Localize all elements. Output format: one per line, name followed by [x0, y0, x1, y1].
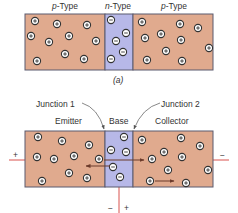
- base-minus-sign: −: [108, 203, 113, 213]
- hole-icon: [70, 152, 77, 159]
- label-p-type-left: p-Type: [51, 1, 78, 11]
- label-emitter: Emitter: [55, 116, 82, 126]
- electron-icon: [107, 55, 114, 62]
- hole-icon: [157, 30, 164, 37]
- hole-icon: [148, 155, 155, 162]
- hole-icon: [95, 155, 102, 162]
- hole-icon: [33, 153, 40, 160]
- hole-icon: [61, 50, 68, 57]
- hole-icon: [83, 21, 90, 28]
- hole-icon: [92, 37, 99, 44]
- hole-icon: [143, 56, 150, 63]
- hole-icon: [27, 32, 34, 39]
- hole-icon: [205, 44, 212, 51]
- hole-icon: [53, 20, 60, 27]
- caption-a: (a): [113, 75, 124, 85]
- electron-icon: [109, 163, 116, 170]
- hole-icon: [177, 36, 184, 43]
- label-n-type: n-Type: [105, 1, 131, 11]
- label-p-type-right: p-Type: [160, 1, 187, 11]
- label-junction-2: Junction 2: [161, 99, 200, 109]
- hole-icon: [182, 179, 189, 186]
- hole-icon: [45, 38, 52, 45]
- hole-icon: [162, 47, 169, 54]
- hole-icon: [141, 34, 148, 41]
- junction-1-pointer: [82, 103, 104, 129]
- label-collector: Collector: [155, 116, 189, 126]
- label-junction-1: Junction 1: [36, 99, 75, 109]
- hole-icon: [58, 137, 65, 144]
- hole-icon: [146, 177, 153, 184]
- diagram-a: p-Type n-Type p-Type (a): [25, 1, 213, 85]
- electron-icon: [116, 173, 123, 180]
- hole-icon: [38, 177, 45, 184]
- electron-icon: [112, 37, 119, 44]
- hole-icon: [177, 134, 184, 141]
- electron-icon: [107, 16, 114, 23]
- diagram-b: Junction 1 Junction 2 Emitter Base Colle…: [9, 99, 229, 213]
- hole-icon: [33, 57, 40, 64]
- electron-icon: [122, 148, 129, 155]
- electron-icon: [107, 146, 114, 153]
- electron-icon: [119, 48, 126, 55]
- hole-icon: [204, 166, 211, 173]
- hole-icon: [194, 24, 201, 31]
- hole-icon: [164, 166, 171, 173]
- label-base: Base: [109, 116, 129, 126]
- hole-icon: [83, 174, 90, 181]
- electron-icon: [120, 133, 127, 140]
- hole-icon: [85, 141, 92, 148]
- base-plus-sign: +: [124, 203, 129, 213]
- hole-icon: [196, 142, 203, 149]
- transistor-diagram: p-Type n-Type p-Type (a) Junction 1 Junc…: [0, 0, 238, 213]
- hole-icon: [176, 20, 183, 27]
- hole-icon: [80, 55, 87, 62]
- collector-bias-sign: −: [220, 150, 225, 160]
- hole-icon: [65, 169, 72, 176]
- emitter-bias-sign: +: [13, 150, 18, 160]
- hole-icon: [34, 133, 41, 140]
- hole-icon: [65, 32, 72, 39]
- hole-icon: [138, 136, 145, 143]
- hole-icon: [160, 148, 167, 155]
- hole-icon: [50, 155, 57, 162]
- hole-icon: [138, 18, 145, 25]
- electron-icon: [122, 29, 129, 36]
- hole-icon: [178, 57, 185, 64]
- hole-icon: [178, 153, 185, 160]
- hole-icon: [31, 17, 38, 24]
